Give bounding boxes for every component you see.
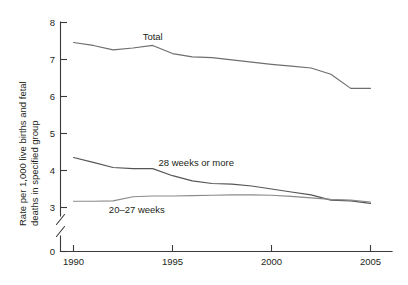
y-tick-label-5: 5 [50, 128, 55, 139]
x-tick-label-1995: 1995 [162, 256, 183, 267]
x-tick-label-1990: 1990 [63, 256, 84, 267]
y-tick-label-3: 3 [50, 202, 55, 213]
y-axis-title-line-2: deaths in specified group [29, 120, 40, 226]
y-tick-label-6: 6 [50, 91, 55, 102]
chart-canvas: Rate per 1,000 live births and fetal dea… [0, 0, 408, 285]
y-tick-label-4: 4 [50, 165, 55, 176]
y-axis-title-line-1: Rate per 1,000 live births and fetal [17, 81, 28, 226]
y-tick-label-0: 0 [50, 246, 55, 257]
y-tick-label-8: 8 [50, 17, 55, 28]
y-tick-label-7: 7 [50, 54, 55, 65]
fetal-mortality-line-chart: Rate per 1,000 live births and fetal dea… [0, 0, 408, 285]
series-label-total: Total [143, 31, 163, 42]
x-tick-label-2005: 2005 [360, 256, 381, 267]
series-label-28-weeks-or-more: 28 weeks or more [159, 157, 235, 168]
series-label-20-27-weeks: 20–27 weeks [109, 204, 165, 215]
x-tick-label-2000: 2000 [261, 256, 282, 267]
chart-background [0, 0, 408, 285]
